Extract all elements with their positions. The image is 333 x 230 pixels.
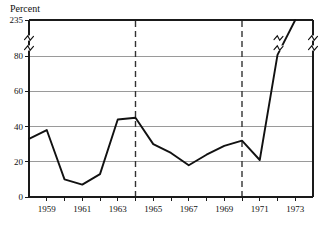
y-tick-label-235: 235	[10, 15, 24, 25]
x-tick-mark-group	[47, 197, 296, 201]
x-tick-label-1961: 1961	[73, 204, 91, 214]
reference-line-group	[136, 21, 243, 196]
y-tick-label-60: 60	[14, 86, 24, 96]
x-tick-label-1959: 1959	[38, 204, 57, 214]
right-axis-break-lower	[309, 45, 318, 50]
percent-line-chart: Percent 020406080235 1959196119631965196…	[0, 0, 333, 230]
y-tick-label-40: 40	[14, 122, 24, 132]
gridline-group	[29, 56, 313, 162]
y-tick-label-20: 20	[14, 157, 24, 167]
y-axis-title: Percent	[10, 3, 40, 14]
series-break-upper	[274, 35, 283, 40]
left-axis-break-upper	[25, 35, 34, 40]
x-tick-label-1967: 1967	[180, 204, 199, 214]
left-axis-break-lower	[25, 45, 34, 50]
chart-container: Percent 020406080235 1959196119631965196…	[0, 0, 333, 230]
x-tick-label-1965: 1965	[144, 204, 163, 214]
right-axis-break-upper	[309, 35, 318, 40]
y-tick-label-0: 0	[19, 192, 24, 202]
chart-axis-title-group: Percent	[10, 3, 40, 14]
axis-break-group	[25, 35, 318, 50]
y-tick-label-group: 020406080235	[10, 15, 24, 202]
x-tick-label-1973: 1973	[286, 204, 305, 214]
x-tick-label-1971: 1971	[251, 204, 269, 214]
x-tick-label-group: 19591961196319651967196919711973	[38, 204, 305, 214]
series-line-percent	[29, 20, 295, 185]
y-tick-label-80: 80	[14, 51, 24, 61]
series-break-lower	[274, 45, 283, 50]
x-tick-label-1963: 1963	[109, 204, 128, 214]
x-tick-label-1969: 1969	[215, 204, 234, 214]
data-series-group	[29, 20, 295, 185]
plot-frame	[29, 20, 313, 197]
